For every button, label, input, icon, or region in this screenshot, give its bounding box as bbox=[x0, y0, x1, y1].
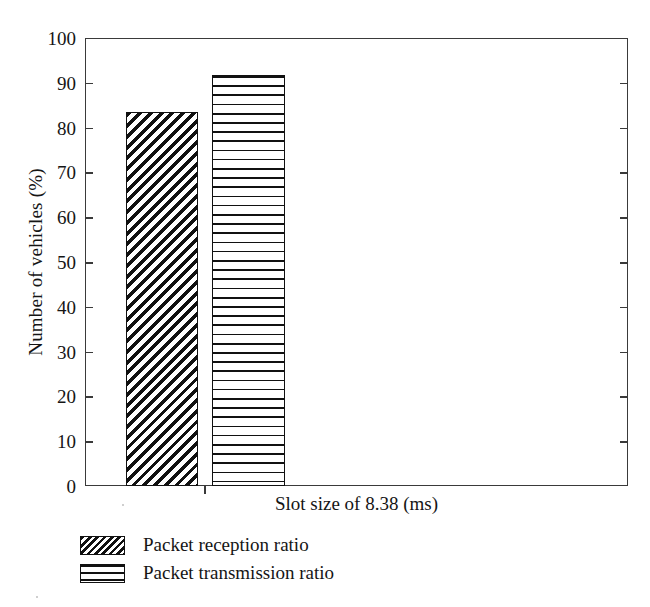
chart-legend: Packet reception ratio Packet transmissi… bbox=[80, 531, 334, 587]
y-axis-tick-label: 60 bbox=[16, 208, 76, 227]
legend-item-packet-transmission-ratio: Packet transmission ratio bbox=[80, 559, 334, 587]
y-axis-tick-label: 20 bbox=[16, 387, 76, 406]
y-axis-tick-mark-right bbox=[620, 307, 628, 309]
y-axis-tick-label: 40 bbox=[16, 298, 76, 317]
y-axis-tick-mark-right bbox=[620, 217, 628, 219]
legend-item-packet-reception-ratio: Packet reception ratio bbox=[80, 531, 334, 559]
scan-speckle bbox=[122, 504, 124, 506]
legend-label-packet-transmission-ratio: Packet transmission ratio bbox=[143, 562, 334, 584]
y-axis-tick-mark bbox=[85, 217, 93, 219]
y-axis-tick-mark bbox=[85, 307, 93, 309]
y-axis-tick-mark bbox=[85, 396, 93, 398]
y-axis-tick-mark-right bbox=[620, 172, 628, 174]
y-axis-tick-label: 10 bbox=[16, 432, 76, 451]
y-axis-tick-label: 0 bbox=[16, 477, 76, 496]
y-axis-tick-label: 70 bbox=[16, 163, 76, 182]
legend-label-packet-reception-ratio: Packet reception ratio bbox=[143, 534, 309, 556]
legend-swatch-horizontal-lines-icon bbox=[80, 564, 125, 583]
y-axis-tick-mark bbox=[85, 441, 93, 443]
y-axis-tick-mark-right bbox=[620, 352, 628, 354]
y-axis-tick-mark bbox=[85, 83, 93, 85]
bar-chart-figure: Number of vehicles (%) 01020304050607080… bbox=[0, 0, 650, 607]
y-axis-tick-label: 80 bbox=[16, 119, 76, 138]
bar-packet-reception-ratio bbox=[126, 112, 198, 486]
y-axis-tick-mark-right bbox=[620, 83, 628, 85]
y-axis-tick-label: 30 bbox=[16, 343, 76, 362]
y-axis-tick-mark bbox=[85, 352, 93, 354]
y-axis-tick-mark-right bbox=[620, 396, 628, 398]
y-axis-tick-label: 50 bbox=[16, 253, 76, 272]
y-axis-tick-mark bbox=[85, 128, 93, 130]
y-axis-tick-mark-right bbox=[620, 262, 628, 264]
y-axis-tick-mark-right bbox=[620, 441, 628, 443]
y-axis-tick-label: 90 bbox=[16, 74, 76, 93]
x-axis-label: Slot size of 8.38 (ms) bbox=[85, 493, 628, 515]
y-axis-tick-mark bbox=[85, 172, 93, 174]
scan-speckle bbox=[36, 596, 38, 598]
y-axis-tick-label: 100 bbox=[16, 29, 76, 48]
legend-swatch-diagonal-hatch-icon bbox=[80, 536, 125, 555]
y-axis-tick-mark-right bbox=[620, 128, 628, 130]
bar-packet-transmission-ratio bbox=[212, 75, 285, 486]
y-axis-tick-mark bbox=[85, 262, 93, 264]
